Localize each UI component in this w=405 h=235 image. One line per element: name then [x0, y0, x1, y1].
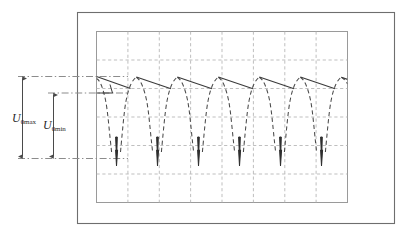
label-u0min-symbol: U	[43, 118, 52, 132]
conduction-spikes	[116, 137, 323, 166]
label-u0max-subscript: 0max	[21, 118, 36, 126]
figure-caption	[0, 227, 405, 235]
label-u0max: U0max	[12, 109, 36, 126]
label-u0max-symbol: U	[12, 111, 21, 125]
outer-frame	[78, 13, 395, 224]
plot-grid	[97, 32, 348, 203]
label-u0min-subscript: 0min	[52, 125, 66, 133]
label-u0min: U0min	[43, 116, 66, 133]
peak-envelope-solid	[97, 77, 348, 89]
